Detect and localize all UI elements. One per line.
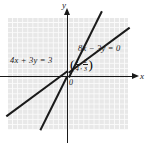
close-paren: ) — [89, 58, 93, 71]
open-paren: ( — [70, 58, 74, 71]
coordinate-graph-figure: 8x − 3y = 0 4x + 3y = 3 x y 0 ( 1 4 , 2 … — [0, 0, 151, 143]
y-denominator: 3 — [84, 65, 87, 71]
x-axis-label: x — [140, 71, 144, 81]
origin-label: 0 — [69, 78, 73, 87]
intersection-point-label: ( 1 4 , 2 3 ) — [70, 58, 93, 72]
equation-label-right: 8x − 3y = 0 — [78, 43, 120, 53]
equation-label-left: 4x + 3y = 3 — [10, 55, 52, 65]
x-denominator: 4 — [76, 65, 79, 71]
x-axis-arrow-icon — [132, 73, 139, 79]
y-coordinate-fraction: 2 3 — [83, 58, 88, 72]
y-axis-label: y — [62, 0, 66, 10]
x-coordinate-fraction: 1 4 — [75, 58, 80, 72]
